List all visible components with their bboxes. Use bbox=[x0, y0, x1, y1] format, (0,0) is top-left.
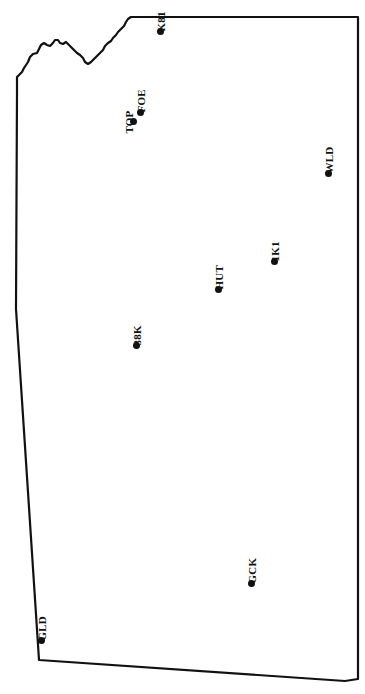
station-label-38k: 38K bbox=[132, 325, 143, 345]
state-outline-svg bbox=[0, 0, 365, 694]
station-label-gld: GLD bbox=[37, 616, 48, 640]
station-label-1k1: 1K1 bbox=[270, 241, 281, 261]
station-label-top: TOP bbox=[124, 110, 135, 133]
station-label-gck: GCK bbox=[247, 558, 258, 584]
map-background bbox=[0, 0, 365, 694]
station-label-k81: K81 bbox=[156, 11, 167, 31]
station-label-wld: WLD bbox=[324, 147, 335, 174]
station-label-hut: HUT bbox=[214, 265, 225, 289]
station-label-foe: FOE bbox=[136, 89, 147, 112]
state-station-map: K81 FOE TOP WLD 1K1 HUT 38 bbox=[0, 0, 365, 694]
